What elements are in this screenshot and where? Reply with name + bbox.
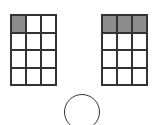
empty-cell xyxy=(102,33,117,51)
empty-cell xyxy=(11,33,26,51)
empty-circle-answer-slot xyxy=(64,94,100,125)
shaded-cell xyxy=(117,15,132,33)
empty-cell xyxy=(132,68,147,86)
empty-cell xyxy=(26,68,41,86)
empty-cell xyxy=(102,68,117,86)
shaded-cell xyxy=(11,15,26,33)
empty-cell xyxy=(132,33,147,51)
right-grid-fraction-3-of-12 xyxy=(101,14,148,86)
empty-cell xyxy=(102,50,117,68)
empty-cell xyxy=(26,33,41,51)
left-grid-fraction-1-of-12 xyxy=(10,14,57,86)
empty-cell xyxy=(117,33,132,51)
empty-cell xyxy=(132,50,147,68)
empty-cell xyxy=(117,50,132,68)
shaded-cell xyxy=(102,15,117,33)
empty-cell xyxy=(26,50,41,68)
empty-cell xyxy=(41,15,56,33)
empty-cell xyxy=(41,50,56,68)
shaded-cell xyxy=(132,15,147,33)
empty-cell xyxy=(41,33,56,51)
empty-cell xyxy=(11,68,26,86)
empty-cell xyxy=(117,68,132,86)
empty-cell xyxy=(11,50,26,68)
empty-cell xyxy=(41,68,56,86)
empty-cell xyxy=(26,15,41,33)
